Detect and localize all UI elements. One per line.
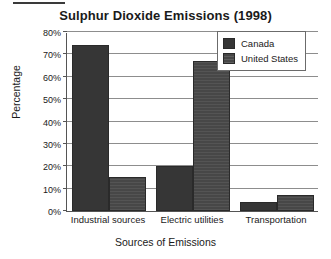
- legend-swatch-icon: [223, 38, 235, 49]
- bar-canada-industrial-sources: [72, 45, 109, 211]
- x-axis-category-label: Transportation: [246, 214, 307, 225]
- x-axis-category-label: Industrial sources: [71, 214, 145, 225]
- y-axis-tick-mark: [63, 188, 67, 189]
- y-axis-tick-mark: [63, 165, 67, 166]
- legend-label: United States: [241, 53, 298, 64]
- bar-united-states-transportation: [277, 195, 314, 211]
- bar-canada-electric-utilities: [156, 166, 193, 211]
- y-axis-tick-label: 20%: [43, 162, 61, 172]
- y-axis-tick-mark: [63, 53, 67, 54]
- y-axis-tick-label: 30%: [43, 140, 61, 150]
- y-axis-tick-mark: [63, 210, 67, 211]
- x-axis-category-label: Electric utilities: [161, 214, 224, 225]
- y-axis-tick-label: 0%: [48, 207, 61, 217]
- y-axis-tick-label: 80%: [43, 28, 61, 38]
- legend-label: Canada: [241, 38, 274, 49]
- chart-title: Sulphur Dioxide Emissions (1998): [0, 8, 331, 23]
- y-axis-tick-label: 70%: [43, 50, 61, 60]
- bar-united-states-industrial-sources: [109, 177, 146, 211]
- y-axis-tick-label: 60%: [43, 73, 61, 83]
- y-axis-tick-mark: [63, 121, 67, 122]
- y-axis-tick-mark: [63, 76, 67, 77]
- y-axis-tick-mark: [63, 98, 67, 99]
- scan-artifact-mark: [13, 2, 65, 4]
- y-axis-tick-label: 10%: [43, 185, 61, 195]
- y-axis-tick-labels: 0%10%20%30%40%50%60%70%80%: [0, 33, 61, 212]
- bar-united-states-electric-utilities: [193, 61, 230, 211]
- legend-item-united-states: United States: [223, 51, 298, 66]
- legend-item-canada: Canada: [223, 36, 298, 51]
- x-axis-title: Sources of Emissions: [0, 236, 331, 248]
- y-axis-tick-label: 40%: [43, 118, 61, 128]
- y-axis-tick-mark: [63, 143, 67, 144]
- bar-canada-transportation: [240, 202, 277, 211]
- chart-legend: CanadaUnited States: [217, 31, 306, 71]
- y-axis-tick-mark: [63, 31, 67, 32]
- y-axis-tick-label: 50%: [43, 95, 61, 105]
- legend-swatch-icon: [223, 53, 235, 64]
- chart-container: Sulphur Dioxide Emissions (1998) Percent…: [0, 0, 331, 259]
